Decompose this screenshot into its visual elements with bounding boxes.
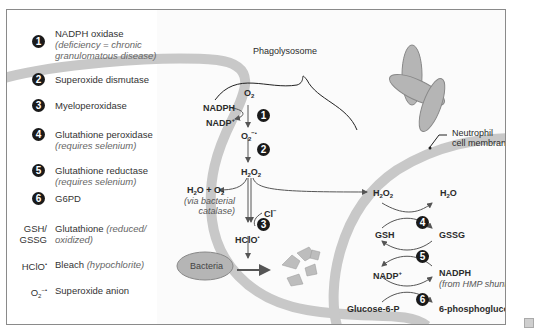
legend-label: Superoxide anion (55, 285, 165, 296)
cycle-h2o-label: H2O (440, 188, 457, 201)
superoxide-label: O2−• (241, 128, 257, 144)
legend-label: Glutathione (55, 223, 104, 234)
abbr-o2: O (31, 287, 38, 298)
badge-2-diagram: 2 (257, 143, 270, 156)
phagolysosome-label: Phagolysosome (253, 46, 317, 56)
legend-label: NADPH oxidase (55, 28, 165, 39)
legend-label: Bleach (55, 259, 84, 270)
legend-label: G6PD (55, 193, 165, 204)
legend-label: Myeloperoxidase (55, 100, 165, 111)
o2-label: O2 (244, 88, 254, 101)
badge-5: 5 (32, 164, 45, 177)
cycle-nadph-label: NADPH (439, 268, 471, 278)
legend-note: (deficiency = chronic granulomatous dise… (55, 39, 165, 61)
badge-1: 1 (32, 35, 45, 48)
cycle-h2o2-label: H2O2 (373, 188, 393, 201)
abbr-hclo: HClO (22, 261, 45, 272)
badge-4-diagram: 4 (416, 216, 429, 229)
catalase-note: (via bacterial catalase) (184, 196, 235, 216)
abbr-gsh: GSH/ (7, 223, 47, 234)
legend-label: Glutathione peroxidase (55, 129, 165, 140)
phosphogluconate-label: 6-phosphogluconate (439, 304, 506, 314)
hmp-shunt-note: (from HMP shunt) (439, 279, 506, 289)
legend-note: (requires selenium) (55, 176, 165, 187)
legend-label: Glutathione reductase (55, 165, 165, 176)
h2o2-label: H2O2 (241, 167, 261, 180)
badge-5-diagram: 5 (416, 250, 429, 263)
nadp-label: NADP+ (206, 115, 235, 128)
gsh-label: GSH (375, 230, 395, 240)
cl-label: Cl− (264, 206, 277, 219)
bacteria-label: Bacteria (190, 261, 223, 271)
gssg-label: GSSG (439, 230, 465, 240)
legend-label: Superoxide dismutase (55, 74, 165, 85)
badge-1-diagram: 1 (257, 109, 270, 122)
legend-note: (hypochlorite) (87, 259, 145, 270)
badge-3-diagram: 3 (257, 218, 270, 231)
badge-3: 3 (32, 99, 45, 112)
diagram-card: 1 NADPH oxidase (deficiency = chronic gr… (6, 9, 506, 325)
nadph-label: NADPH (203, 103, 235, 113)
hclo-label: HClO• (235, 232, 260, 245)
badge-6: 6 (32, 192, 45, 205)
legend-panel: 1 NADPH oxidase (deficiency = chronic gr… (7, 10, 157, 325)
membrane-label: Neutrophil cell membrane (452, 128, 506, 148)
badge-4: 4 (32, 128, 45, 141)
glucose-6-p-label: Glucose-6-P (347, 304, 400, 314)
abbr-gssg: GSSG (7, 234, 47, 245)
cycle-nadp-label: NADP+ (373, 268, 402, 281)
legend-note: (requires selenium) (55, 140, 165, 151)
badge-6-diagram: 6 (416, 293, 429, 306)
expand-icon[interactable] (524, 318, 534, 328)
badge-2: 2 (32, 73, 45, 86)
